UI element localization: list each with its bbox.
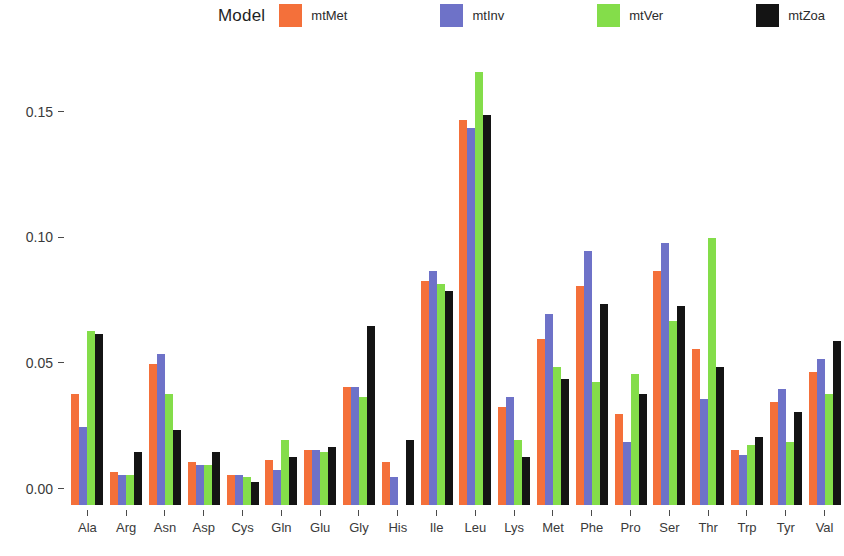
bar-gly-mtmet[interactable]: [343, 387, 351, 505]
bar-tyr-mtver[interactable]: [786, 442, 794, 505]
x-tick-label: Gln: [271, 520, 291, 535]
bar-thr-mtinv[interactable]: [700, 399, 708, 505]
x-tick-label: Val: [816, 520, 834, 535]
bar-leu-mtmet[interactable]: [459, 120, 467, 505]
legend-entry-mtmet[interactable]: mtMet: [279, 4, 347, 27]
x-tick-mark: [242, 510, 243, 516]
legend-entry-mtzoa[interactable]: mtZoa: [756, 4, 825, 27]
bar-ile-mtinv[interactable]: [429, 271, 437, 505]
y-tick-text: 0.00: [26, 481, 53, 497]
y-tick-label: 0.00: [26, 481, 68, 497]
bar-cys-mtinv[interactable]: [235, 475, 243, 505]
bar-asn-mtzoa[interactable]: [173, 430, 181, 505]
x-tick-label: Tyr: [777, 520, 795, 535]
bar-lys-mtinv[interactable]: [506, 397, 514, 505]
bar-gln-mtzoa[interactable]: [289, 457, 297, 505]
bar-gln-mtinv[interactable]: [273, 470, 281, 505]
y-tick-text: 0.10: [26, 229, 53, 245]
bar-met-mtver[interactable]: [553, 367, 561, 505]
bar-val-mtver[interactable]: [825, 394, 833, 505]
y-tick-text: 0.05: [26, 355, 53, 371]
bar-glu-mtinv[interactable]: [312, 450, 320, 505]
bar-phe-mtmet[interactable]: [576, 286, 584, 505]
bar-gln-mtmet[interactable]: [265, 460, 273, 505]
bar-phe-mtzoa[interactable]: [600, 304, 608, 505]
x-tick-label: Met: [542, 520, 564, 535]
bar-pro-mtinv[interactable]: [623, 442, 631, 505]
bar-asn-mtver[interactable]: [165, 394, 173, 505]
bar-his-mtzoa[interactable]: [406, 440, 414, 505]
legend-label-mtver: mtVer: [629, 8, 663, 23]
bar-met-mtzoa[interactable]: [561, 379, 569, 505]
bar-trp-mtinv[interactable]: [739, 455, 747, 505]
bar-arg-mtinv[interactable]: [118, 475, 126, 505]
bar-thr-mtmet[interactable]: [692, 349, 700, 505]
bar-ser-mtzoa[interactable]: [677, 306, 685, 505]
bar-ala-mtmet[interactable]: [71, 394, 79, 505]
bar-ser-mtinv[interactable]: [661, 243, 669, 505]
bar-lys-mtmet[interactable]: [498, 407, 506, 505]
bar-asp-mtver[interactable]: [204, 465, 212, 505]
bar-tyr-mtzoa[interactable]: [794, 412, 802, 505]
bar-pro-mtver[interactable]: [631, 374, 639, 505]
bar-val-mtinv[interactable]: [817, 359, 825, 505]
bar-trp-mtmet[interactable]: [731, 450, 739, 505]
bar-val-mtmet[interactable]: [809, 372, 817, 505]
bar-lys-mtver[interactable]: [514, 440, 522, 505]
legend-spacer: [663, 15, 756, 16]
bar-gly-mtver[interactable]: [359, 397, 367, 505]
bar-tyr-mtinv[interactable]: [778, 389, 786, 505]
bar-glu-mtmet[interactable]: [304, 450, 312, 505]
bar-ala-mtzoa[interactable]: [95, 334, 103, 505]
bar-met-mtinv[interactable]: [545, 314, 553, 505]
bar-leu-mtzoa[interactable]: [483, 115, 491, 505]
bar-asn-mtmet[interactable]: [149, 364, 157, 505]
bar-pro-mtmet[interactable]: [615, 414, 623, 505]
bar-arg-mtver[interactable]: [126, 475, 134, 505]
x-tick-label: Glu: [310, 520, 330, 535]
bar-asp-mtinv[interactable]: [196, 465, 204, 505]
bar-lys-mtzoa[interactable]: [522, 457, 530, 505]
bar-ser-mtver[interactable]: [669, 321, 677, 505]
bar-leu-mtver[interactable]: [475, 72, 483, 505]
bar-group: [805, 52, 844, 505]
bar-trp-mtzoa[interactable]: [755, 437, 763, 505]
bar-arg-mtmet[interactable]: [110, 472, 118, 505]
bar-phe-mtinv[interactable]: [584, 251, 592, 505]
bar-pro-mtzoa[interactable]: [639, 394, 647, 505]
bar-thr-mtver[interactable]: [708, 238, 716, 505]
legend-entry-mtinv[interactable]: mtInv: [440, 4, 504, 27]
bar-group: [107, 52, 146, 505]
bar-ile-mtzoa[interactable]: [445, 291, 453, 505]
legend-entry-mtver[interactable]: mtVer: [597, 4, 663, 27]
bar-asp-mtmet[interactable]: [188, 462, 196, 505]
x-tick-label: Arg: [116, 520, 136, 535]
bar-gln-mtver[interactable]: [281, 440, 289, 505]
bar-ala-mtver[interactable]: [87, 331, 95, 505]
bar-phe-mtver[interactable]: [592, 382, 600, 505]
bar-ile-mtmet[interactable]: [421, 281, 429, 505]
x-tick: Arg: [107, 505, 146, 555]
bar-gly-mtinv[interactable]: [351, 387, 359, 505]
bar-cys-mtmet[interactable]: [227, 475, 235, 505]
bar-ile-mtver[interactable]: [437, 284, 445, 505]
bar-met-mtmet[interactable]: [537, 339, 545, 505]
bar-asn-mtinv[interactable]: [157, 354, 165, 505]
bar-val-mtzoa[interactable]: [833, 341, 841, 505]
bar-his-mtmet[interactable]: [382, 462, 390, 505]
bar-asp-mtzoa[interactable]: [212, 452, 220, 505]
bar-tyr-mtmet[interactable]: [770, 402, 778, 505]
bar-leu-mtinv[interactable]: [467, 128, 475, 506]
bar-glu-mtver[interactable]: [320, 452, 328, 505]
bar-ala-mtinv[interactable]: [79, 427, 87, 505]
bar-cys-mtzoa[interactable]: [251, 482, 259, 505]
bar-ser-mtmet[interactable]: [653, 271, 661, 505]
bar-glu-mtzoa[interactable]: [328, 447, 336, 505]
bar-cys-mtver[interactable]: [243, 477, 251, 505]
bar-trp-mtver[interactable]: [747, 445, 755, 505]
bar-arg-mtzoa[interactable]: [134, 452, 142, 505]
bar-thr-mtzoa[interactable]: [716, 367, 724, 505]
bar-his-mtinv[interactable]: [390, 477, 398, 505]
x-tick-label: Ile: [430, 520, 444, 535]
bar-gly-mtzoa[interactable]: [367, 326, 375, 505]
